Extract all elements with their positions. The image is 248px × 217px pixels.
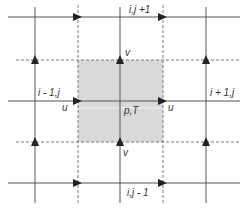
label-center-pT: p,T [123,105,139,116]
label-left-node: i - 1,j [38,87,60,98]
label-u-right: u [168,102,174,113]
arrow-right-icon [158,13,167,21]
arrow-right-icon [73,13,82,21]
label-v-top: v [125,47,131,58]
staggered-grid-diagram: i,j +1 i - 1,j i + 1,j i,j - 1 p,T u u v… [0,0,248,217]
label-bottom-node: i,j - 1 [127,187,149,198]
label-u-left: u [62,102,68,113]
label-top-node: i,j +1 [129,4,150,15]
label-right-node: i + 1,j [210,87,235,98]
label-v-bottom: v [123,147,129,158]
